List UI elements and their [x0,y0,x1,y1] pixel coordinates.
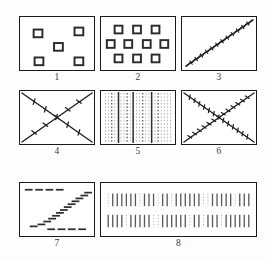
panel-6 [181,90,257,145]
panel-label-2: 2 [100,72,176,83]
panel-1 [19,16,95,71]
panel-5-graphic [101,91,175,144]
panel-label-3: 3 [181,72,257,83]
panel-6-graphic [182,91,256,144]
figure-canvas: 1 2 3 [0,0,270,259]
panel-2-graphic [101,17,175,70]
panel-label-1: 1 [19,72,95,83]
panel-2 [100,16,176,71]
panel-4-graphic [20,91,94,144]
panel-label-6: 6 [181,146,257,157]
panel-label-5: 5 [100,146,176,157]
panel-5 [100,90,176,145]
panel-4 [19,90,95,145]
panel-label-8: 8 [100,238,257,249]
panel-label-4: 4 [19,146,95,157]
panel-7-graphic [20,183,94,236]
panel-3 [181,16,257,71]
panel-7 [19,182,95,237]
panel-label-7: 7 [19,238,95,249]
panel-8-graphic [101,183,256,236]
panel-8 [100,182,257,237]
panel-3-graphic [182,17,256,70]
panel-1-graphic [20,17,94,70]
